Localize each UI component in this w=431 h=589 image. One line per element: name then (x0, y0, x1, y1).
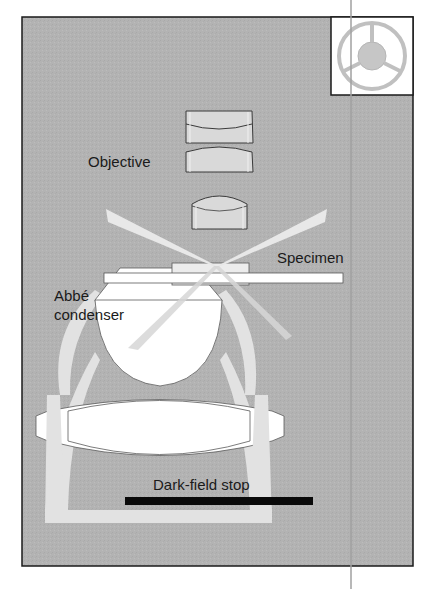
label-condenser-1: Abbé (54, 287, 89, 304)
objective-lens-group (186, 111, 253, 229)
label-condenser-2: condenser (54, 306, 124, 323)
dark-field-stop-bar (125, 497, 313, 505)
label-dark-field-stop: Dark-field stop (153, 476, 250, 493)
dark-field-diagram: Objective Specimen Abbé condenser Dark-f… (0, 0, 431, 589)
label-objective: Objective (88, 153, 151, 170)
label-specimen: Specimen (277, 249, 344, 266)
